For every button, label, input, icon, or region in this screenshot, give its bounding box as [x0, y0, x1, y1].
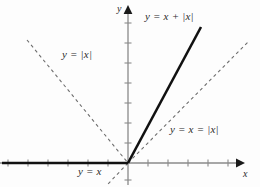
annotation-y-equals-x-equals-abs-x: y = x = |x|: [170, 124, 219, 135]
y-axis-arrow-icon: [124, 5, 133, 14]
annotation-y-equals-x: y = x: [78, 166, 102, 177]
graph-figure: y = x + |x| y = |x| y = x = |x| y = x y …: [0, 0, 260, 187]
annotation-y-equals-x-plus-abs-x: y = x + |x|: [145, 11, 194, 22]
curve-identity-dashed-left: [108, 163, 128, 184]
curve-ramp-solid-group: [2, 27, 201, 163]
plot-canvas: [0, 0, 260, 187]
curve-identity-dashed-right: [128, 41, 249, 163]
annotation-y-equals-abs-x: y = |x|: [62, 49, 92, 60]
axes-group: [0, 5, 245, 185]
curve-ramp-rising-segment: [128, 27, 201, 163]
y-axis-label: y: [117, 4, 122, 14]
x-axis-label: x: [243, 169, 248, 179]
x-axis-arrow-icon: [236, 159, 245, 168]
